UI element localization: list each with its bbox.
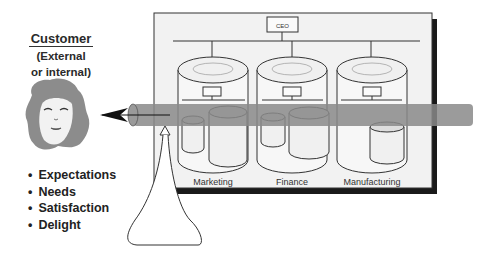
department-label-manufacturing: Manufacturing: [343, 177, 400, 187]
customer-face-icon: [26, 78, 90, 149]
org-diagram: CEO: [0, 0, 491, 262]
department-label-marketing: Marketing: [193, 177, 233, 187]
department-label-finance: Finance: [276, 177, 308, 187]
ceo-label: CEO: [276, 23, 289, 29]
customer-process-pipe: [100, 104, 473, 126]
